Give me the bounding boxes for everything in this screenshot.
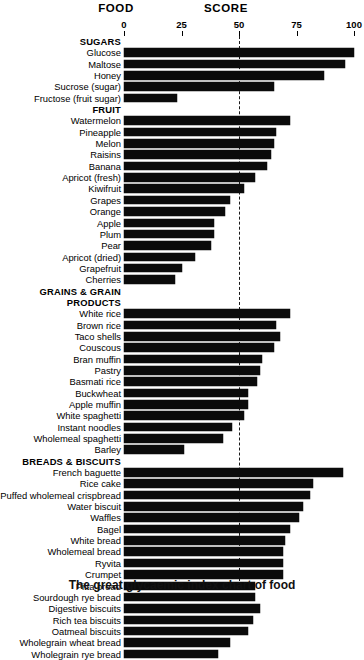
- bar-track: [124, 616, 354, 625]
- food-label: Apricot (dried): [62, 252, 121, 263]
- food-row: Fructose (fruit sugar): [0, 93, 364, 104]
- bar: [124, 241, 211, 250]
- food-label: Instant noodles: [57, 422, 121, 433]
- food-row: Barley: [0, 444, 364, 455]
- food-label: Taco shells: [75, 331, 121, 342]
- bar-track: [124, 173, 354, 182]
- bar-track: [124, 627, 354, 636]
- bar: [124, 82, 274, 91]
- bar: [124, 627, 248, 636]
- food-label: Rice cake: [80, 478, 121, 489]
- bar: [124, 366, 260, 375]
- food-row: Wholemeal bread: [0, 546, 364, 557]
- bar: [124, 309, 290, 318]
- bar-track: [124, 468, 354, 477]
- bar-track: [124, 366, 354, 375]
- bar-track: [124, 139, 354, 148]
- bar-track: [124, 377, 354, 386]
- bar-track: [124, 207, 354, 216]
- food-row: Kiwifruit: [0, 183, 364, 194]
- bar: [124, 150, 271, 159]
- bar: [124, 616, 253, 625]
- x-axis-tick-labels: 0255075100: [0, 19, 364, 31]
- bar: [124, 162, 267, 171]
- bar: [124, 445, 184, 454]
- bar: [124, 264, 182, 273]
- food-label: Grapes: [90, 195, 121, 206]
- bar-track: [124, 94, 354, 103]
- bar-track: [124, 525, 354, 534]
- food-label: Waffles: [90, 512, 121, 523]
- food-label: Fructose (fruit sugar): [34, 93, 121, 104]
- bar-track: [124, 48, 354, 57]
- food-row: Grapes: [0, 195, 364, 206]
- bar: [124, 604, 260, 613]
- food-row: Wholegrain wheat bread: [0, 637, 364, 648]
- bar: [124, 219, 214, 228]
- food-row: Wholemeal spaghetti: [0, 433, 364, 444]
- food-row: Apricot (dried): [0, 252, 364, 263]
- bar: [124, 559, 283, 568]
- food-label: Ryvita: [95, 558, 121, 569]
- group-heading-row: BREADS & BISCUITS: [0, 456, 364, 467]
- x-axis-label-75: 75: [291, 19, 302, 30]
- bar: [124, 536, 285, 545]
- food-label: Kiwifruit: [88, 183, 121, 194]
- bar-track: [124, 536, 354, 545]
- bar: [124, 400, 248, 409]
- bar-track: [124, 264, 354, 273]
- bar: [124, 139, 274, 148]
- food-row: Brown rice: [0, 320, 364, 331]
- bar-track: [124, 162, 354, 171]
- food-label: Apple muffin: [69, 399, 121, 410]
- food-row: Pastry: [0, 365, 364, 376]
- bar: [124, 638, 230, 647]
- food-label: Basmati rice: [69, 376, 121, 387]
- bar-track: [124, 253, 354, 262]
- food-label: Barley: [94, 444, 121, 455]
- chart-caption: The great glycaemic index chart of food: [0, 578, 364, 592]
- bar-track: [124, 389, 354, 398]
- food-label: Rich tea biscuits: [53, 615, 121, 626]
- bar-track: [124, 559, 354, 568]
- bar: [124, 253, 195, 262]
- bar: [124, 411, 244, 420]
- food-row: Glucose: [0, 47, 364, 58]
- food-label: French baguette: [53, 467, 121, 478]
- food-row: Apple muffin: [0, 399, 364, 410]
- food-row: White spaghetti: [0, 410, 364, 421]
- bar-track: [124, 82, 354, 91]
- food-row: Wholegrain rye bread: [0, 649, 364, 660]
- bar-track: [124, 309, 354, 318]
- food-label: Bagel: [97, 524, 121, 535]
- food-row: Bran muffin: [0, 354, 364, 365]
- bar-track: [124, 150, 354, 159]
- food-row: Cherries: [0, 274, 364, 285]
- food-row: Taco shells: [0, 331, 364, 342]
- food-label: Glucose: [87, 47, 121, 58]
- bar-track: [124, 434, 354, 443]
- food-row: White bread: [0, 535, 364, 546]
- food-label: White bread: [70, 535, 121, 546]
- bar: [124, 184, 244, 193]
- bar-track: [124, 184, 354, 193]
- food-row: Puffed wholemeal crispbread: [0, 490, 364, 501]
- bar-track: [124, 343, 354, 352]
- bar: [124, 491, 310, 500]
- food-label: Raisins: [90, 149, 121, 160]
- food-label: Melon: [95, 138, 121, 149]
- bar: [124, 650, 218, 659]
- bar: [124, 479, 313, 488]
- bar: [124, 434, 223, 443]
- bar: [124, 389, 248, 398]
- bar: [124, 423, 232, 432]
- bar: [124, 513, 299, 522]
- bar-track: [124, 219, 354, 228]
- food-label: White rice: [79, 308, 121, 319]
- bar: [124, 525, 290, 534]
- food-label: Wholemeal bread: [48, 546, 121, 557]
- group-heading-label: SUGARS: [80, 36, 121, 47]
- bar-track: [124, 604, 354, 613]
- column-header-food: FOOD: [76, 2, 156, 14]
- food-row: Waffles: [0, 512, 364, 523]
